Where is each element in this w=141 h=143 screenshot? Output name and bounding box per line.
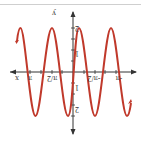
label-pi-half: π/2	[47, 74, 57, 83]
label-neg-pi: -π	[116, 74, 123, 83]
y-axis-arrow-down-icon	[71, 129, 76, 135]
y-axis-arrow-up-icon	[71, 11, 76, 17]
label-x: x	[15, 74, 19, 83]
label-two: 2	[75, 105, 79, 114]
x-axis-arrow-right-icon	[131, 70, 137, 75]
label-pi: π	[28, 74, 32, 83]
label-one: 1	[75, 83, 79, 92]
label-y: y	[52, 9, 56, 18]
label-neg-one: 1	[75, 49, 79, 58]
sine-graph: x y π π/2 -π/2 -π 1 2 1 2	[0, 0, 141, 143]
label-neg-two: 2	[75, 24, 79, 33]
x-axis-arrow-left-icon	[10, 70, 16, 75]
curve-arrow-left-icon	[15, 40, 19, 44]
label-neg-pi-half: -π/2	[88, 74, 101, 83]
